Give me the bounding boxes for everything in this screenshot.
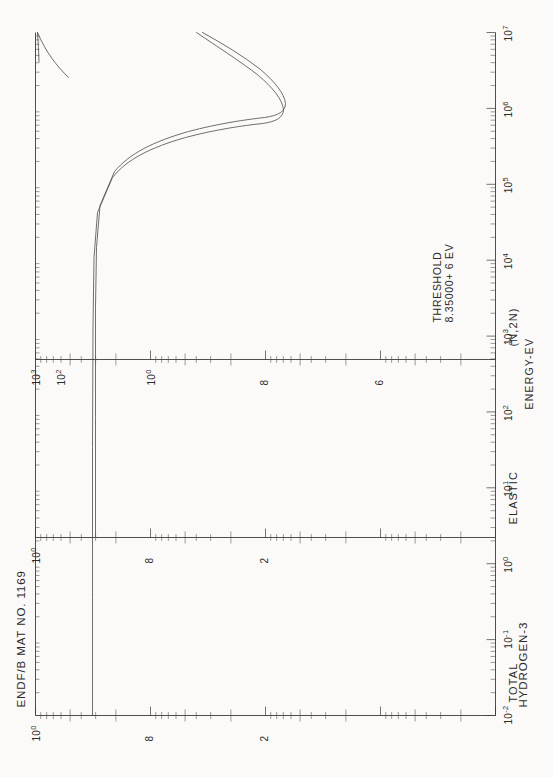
energy-tick-label: 10-1 <box>500 629 513 648</box>
energy-tick-label: 105 <box>500 177 513 193</box>
panel-y-tick-label: 8 <box>258 379 269 385</box>
panel-y-tick-label: 8 <box>143 735 154 741</box>
energy-axis-minor-ticks <box>490 35 495 692</box>
plot-page: HYDROGEN-3 ENDF/B MAT NO. 1169 10-210-11… <box>0 0 553 777</box>
panel-total-y-minor <box>40 709 460 721</box>
panel-total <box>35 32 495 721</box>
energy-tick-label: 107 <box>500 25 513 41</box>
threshold-annotation-line2: 8.35000+ 6 EV <box>442 243 454 322</box>
threshold-annotation: THRESHOLD 8.35000+ 6 EV <box>430 243 454 322</box>
panel-label-elastic: ELASTIC <box>506 470 518 524</box>
energy-axis <box>486 32 495 715</box>
panel-y-tick-label: 102 <box>53 369 66 385</box>
energy-axis-major-ticks <box>486 32 495 715</box>
curve-n2n-rise <box>37 32 68 77</box>
panel-elastic-y-minor <box>40 531 460 543</box>
library-id: ENDF/B MAT NO. 1169 <box>14 570 26 707</box>
panel-y-tick-label: 100 <box>28 725 41 741</box>
energy-tick-label: 104 <box>500 252 513 268</box>
curve-total <box>92 32 283 715</box>
panel-y-tick-label: 100 <box>28 547 41 563</box>
plot-sheet: HYDROGEN-3 ENDF/B MAT NO. 1169 10-210-11… <box>0 0 553 777</box>
energy-tick-label: 102 <box>500 404 513 420</box>
plot-canvas <box>0 0 553 777</box>
panel-y-tick-label: 6 <box>373 379 384 385</box>
panel-y-tick-label: 8 <box>143 557 154 563</box>
curve-elastic <box>95 32 285 537</box>
panel-label-n2n: (N,2N) <box>506 307 518 346</box>
energy-tick-label: 106 <box>500 101 513 117</box>
panel-y-tick-label: 100 <box>143 369 156 385</box>
panel-elastic <box>35 528 495 543</box>
panel-y-tick-label: 2 <box>258 735 269 741</box>
panel-label-total: TOTAL <box>506 662 518 702</box>
curve-n2n <box>37 32 39 61</box>
panel-y-tick-label: 103 <box>28 369 41 385</box>
energy-axis-label: ENERGY-EV <box>522 337 534 409</box>
threshold-annotation-line1: THRESHOLD <box>430 243 442 322</box>
panel-n2n <box>35 350 495 365</box>
panel-n2n-y-minor <box>40 353 460 365</box>
energy-tick-label: 100 <box>500 556 513 572</box>
panel-y-tick-label: 2 <box>258 557 269 563</box>
energy-tick-label: 10-2 <box>500 705 513 724</box>
